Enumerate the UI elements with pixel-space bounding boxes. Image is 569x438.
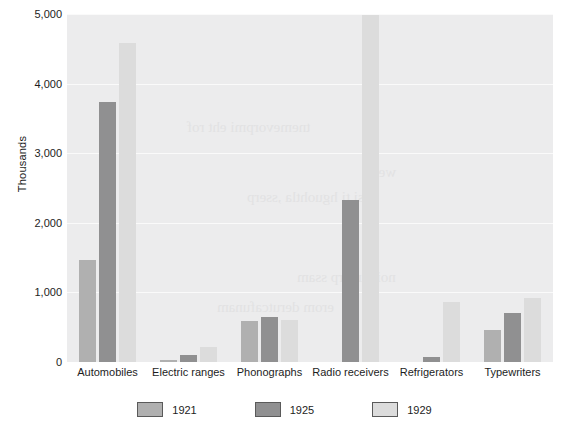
bar <box>160 360 177 362</box>
bar <box>79 260 96 362</box>
bar <box>443 302 460 362</box>
legend-item[interactable]: 1929 <box>372 402 431 417</box>
y-tick-label: 2,000 <box>18 217 62 229</box>
y-tick-label: 0 <box>18 356 62 368</box>
gridline <box>67 153 553 154</box>
legend-swatch <box>137 402 163 417</box>
category-label: Typewriters <box>484 366 540 378</box>
bar <box>423 357 440 362</box>
gridline <box>67 292 553 293</box>
bar-group <box>160 14 217 362</box>
bar-chart-figure: Thousands 01,0002,0003,0004,0005,000 wei… <box>0 0 569 438</box>
bar <box>119 43 136 362</box>
y-tick-label: 4,000 <box>18 78 62 90</box>
bar <box>342 200 359 362</box>
legend-label: 1929 <box>407 404 431 416</box>
legend-label: 1925 <box>290 404 314 416</box>
chart-legend: 192119251929 <box>0 402 569 417</box>
bar <box>261 317 278 362</box>
category-label: Refrigerators <box>400 366 464 378</box>
category-label: Radio receivers <box>312 366 388 378</box>
bar <box>524 298 541 362</box>
x-axis-category-labels: AutomobilesElectric rangesPhonographsRad… <box>67 366 553 382</box>
legend-item[interactable]: 1921 <box>137 402 196 417</box>
gridline <box>67 84 553 85</box>
bar <box>241 321 258 362</box>
category-label: Phonographs <box>237 366 302 378</box>
category-label: Electric ranges <box>152 366 225 378</box>
plot-area: weivsi ti hguohtla ,sserptnemevorpmi eht… <box>67 14 553 362</box>
category-label: Automobiles <box>77 366 138 378</box>
gridline <box>67 14 553 15</box>
bar-group <box>322 14 379 362</box>
y-axis-tick-labels: 01,0002,0003,0004,0005,000 <box>14 0 62 438</box>
legend-swatch <box>372 402 398 417</box>
bar <box>504 313 521 362</box>
y-tick-label: 1,000 <box>18 286 62 298</box>
y-tick-label: 3,000 <box>18 147 62 159</box>
bar-group <box>79 14 136 362</box>
bar <box>484 330 501 362</box>
legend-item[interactable]: 1925 <box>255 402 314 417</box>
bar <box>362 15 379 362</box>
bar <box>180 355 197 362</box>
y-tick-label: 5,000 <box>18 8 62 20</box>
bar-group <box>403 14 460 362</box>
bar <box>281 320 298 362</box>
bar <box>200 347 217 362</box>
bar <box>99 102 116 362</box>
bar-group <box>484 14 541 362</box>
bar-group <box>241 14 298 362</box>
legend-swatch <box>255 402 281 417</box>
legend-label: 1921 <box>172 404 196 416</box>
gridline <box>67 223 553 224</box>
